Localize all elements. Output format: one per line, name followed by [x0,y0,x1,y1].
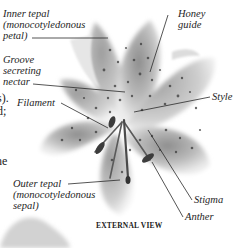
label-outer-tepal: Outer tepal (monocotyledonous sepal) [13,178,95,211]
label-style: Style [212,91,232,102]
label-stigma: Stigma [194,194,223,205]
label-filament: Filament [17,97,55,108]
tepal-right-lower [125,127,210,174]
cropped-text-fragment: d; [0,104,6,119]
label-anther: Anther [185,211,214,222]
label-groove-secreting-nectar: Groove secreting nectar [3,54,41,87]
label-honey-guide: Honey guide [178,8,205,30]
label-inner-tepal: Inner tepal (monocotyledonous petal) [3,8,85,41]
lily-diagram: s). d; ne Inner tepal (monocotyledonous … [0,0,236,248]
outer-tepal-left [40,121,115,155]
faded-petal-fragment [0,218,70,248]
stigma-tip [126,176,131,184]
diagram-caption: EXTERNAL VIEW [96,221,162,230]
cropped-text-fragment: ne [0,154,7,169]
